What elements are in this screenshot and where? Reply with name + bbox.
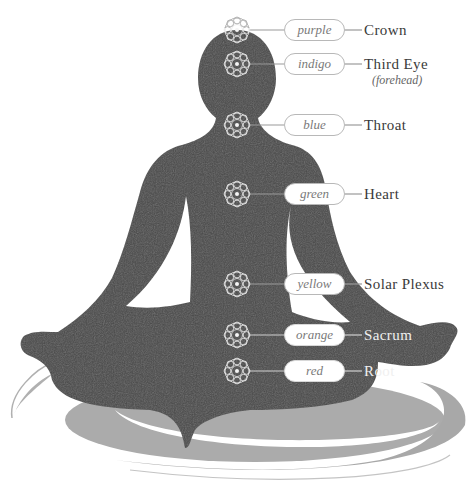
meditation-figure-illustration [0,0,475,491]
chakra-diagram: purple Crown indigo Third Eye (forehead)… [0,0,475,491]
body-silhouette [21,30,458,448]
